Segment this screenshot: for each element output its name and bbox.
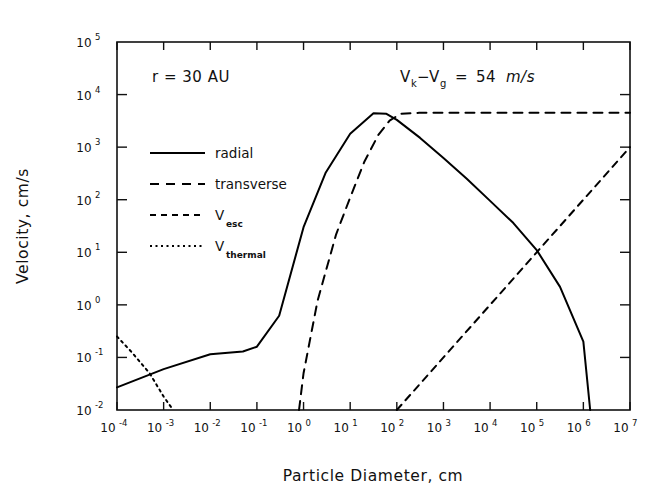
svg-text:-4: -4 <box>119 418 127 428</box>
legend-item-transverse: transverse <box>150 176 287 192</box>
x-axis-tick-labels: 10-410-310-210-1100101102103104105106107 <box>100 418 637 435</box>
annotation-velocity-difference: V k − V g = 54 m/s <box>400 68 535 89</box>
svg-text:3: 3 <box>445 418 450 428</box>
svg-text:10: 10 <box>427 421 442 435</box>
legend-label-subscript: thermal <box>226 250 266 260</box>
x-tick-label-6: 106 <box>567 418 591 435</box>
svg-text:1: 1 <box>352 418 357 428</box>
legend-item-radial: radial <box>150 145 253 161</box>
annotation-radius: r = 30 AU <box>152 68 230 86</box>
svg-text:10: 10 <box>76 351 91 365</box>
plot-svg: 10-410-310-210-1100101102103104105106107… <box>0 0 668 499</box>
y-tick-label-0: 100 <box>76 295 100 313</box>
svg-text:7: 7 <box>632 418 637 428</box>
svg-text:-2: -2 <box>95 400 103 410</box>
svg-text:-2: -2 <box>212 418 220 428</box>
annot-v1: V <box>400 68 411 86</box>
x-tick-label-0: 100 <box>287 418 311 435</box>
annot-units: m/s <box>506 68 535 86</box>
legend-label: V <box>215 207 225 223</box>
svg-text:1: 1 <box>95 242 100 252</box>
svg-text:10: 10 <box>194 421 209 435</box>
svg-text:-1: -1 <box>95 347 103 357</box>
svg-text:10: 10 <box>100 421 115 435</box>
svg-text:10: 10 <box>76 299 91 313</box>
x-tick-label-3: 103 <box>427 418 451 435</box>
annot-value: 54 <box>476 68 496 86</box>
svg-text:10: 10 <box>613 421 628 435</box>
svg-text:10: 10 <box>473 421 488 435</box>
svg-text:-3: -3 <box>166 418 174 428</box>
plot-frame <box>117 42 630 410</box>
x-tick-label--3: 10-3 <box>147 418 174 435</box>
curve-v-esc <box>397 147 630 410</box>
y-axis-tick-labels: 10510410310210110010-110-2 <box>76 32 103 418</box>
svg-text:-1: -1 <box>259 418 267 428</box>
legend-label: radial <box>215 145 253 161</box>
legend: radialtransverseVescVthermal <box>150 145 287 260</box>
legend-label: transverse <box>215 176 287 192</box>
svg-text:10: 10 <box>520 421 535 435</box>
annot-g-subscript: g <box>440 78 446 89</box>
annot-v2: V <box>429 68 440 86</box>
svg-text:10: 10 <box>287 421 302 435</box>
x-tick-label--4: 10-4 <box>100 418 127 435</box>
legend-item-V-esc: Vesc <box>150 207 243 229</box>
svg-text:2: 2 <box>399 418 404 428</box>
x-tick-label-5: 105 <box>520 418 544 435</box>
figure-container: 10-410-310-210-1100101102103104105106107… <box>0 0 668 499</box>
legend-label: V <box>215 238 225 254</box>
x-tick-label-2: 102 <box>380 418 404 435</box>
curve-transverse <box>299 113 630 410</box>
y-tick-label-5: 105 <box>76 32 100 50</box>
svg-text:0: 0 <box>306 418 311 428</box>
x-tick-label-7: 107 <box>613 418 637 435</box>
y-tick-label-3: 103 <box>76 137 100 155</box>
svg-text:10: 10 <box>147 421 162 435</box>
svg-text:10: 10 <box>76 194 91 208</box>
x-axis-ticks <box>117 42 630 410</box>
svg-text:10: 10 <box>240 421 255 435</box>
svg-text:10: 10 <box>380 421 395 435</box>
curve-v-thermal <box>117 337 173 410</box>
svg-text:6: 6 <box>585 418 590 428</box>
annot-equals: = <box>455 68 468 86</box>
svg-text:10: 10 <box>76 36 91 50</box>
svg-text:0: 0 <box>95 295 100 305</box>
legend-item-V-thermal: Vthermal <box>150 238 266 260</box>
svg-text:10: 10 <box>76 89 91 103</box>
y-tick-label-1: 101 <box>76 242 100 260</box>
svg-text:3: 3 <box>95 137 100 147</box>
svg-text:10: 10 <box>567 421 582 435</box>
svg-text:10: 10 <box>334 421 349 435</box>
svg-text:5: 5 <box>539 418 544 428</box>
svg-text:4: 4 <box>95 85 100 95</box>
y-tick-label--1: 10-1 <box>76 347 103 365</box>
y-tick-label--2: 10-2 <box>76 400 103 418</box>
curve-radial <box>117 113 590 410</box>
svg-text:10: 10 <box>76 141 91 155</box>
x-tick-label-1: 101 <box>334 418 358 435</box>
x-tick-label-4: 104 <box>473 418 497 435</box>
x-tick-label--1: 10-1 <box>240 418 267 435</box>
y-axis-ticks <box>117 95 630 358</box>
x-tick-label--2: 10-2 <box>194 418 221 435</box>
y-tick-label-4: 104 <box>76 85 100 103</box>
svg-text:10: 10 <box>76 246 91 260</box>
svg-text:10: 10 <box>76 404 91 418</box>
y-axis-title: Velocity, cm/s <box>14 168 32 284</box>
svg-text:5: 5 <box>95 32 100 42</box>
legend-label-subscript: esc <box>226 219 243 229</box>
svg-text:2: 2 <box>95 190 100 200</box>
x-axis-title: Particle Diameter, cm <box>283 467 464 485</box>
svg-text:4: 4 <box>492 418 497 428</box>
y-tick-label-2: 102 <box>76 190 100 208</box>
